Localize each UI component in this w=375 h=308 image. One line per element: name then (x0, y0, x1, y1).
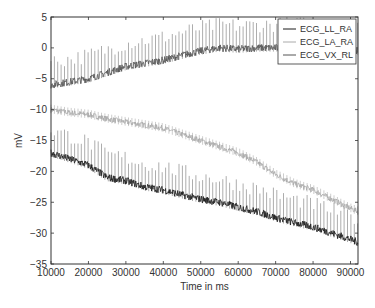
y-tick-label: −20 (30, 166, 47, 177)
y-tick-label: −30 (30, 228, 47, 239)
y-tick-label: −5 (36, 73, 48, 84)
x-tick-label: 60000 (224, 267, 252, 278)
x-axis-label: Time in ms (180, 281, 229, 292)
x-tick-label: 20000 (75, 267, 103, 278)
y-tick-label: −10 (30, 104, 47, 115)
x-tick-label: 90000 (337, 267, 365, 278)
x-tick-label: 70000 (262, 267, 290, 278)
x-tick-label: 30000 (112, 267, 140, 278)
x-tick-label: 80000 (299, 267, 327, 278)
legend-label-ecg_ll_ra: ECG_LL_RA (300, 24, 352, 34)
legend-label-ecg_la_ra: ECG_LA_RA (300, 37, 353, 47)
y-tick-label: −15 (30, 135, 47, 146)
series-line-ecg_ll_ra (51, 150, 358, 246)
x-tick-label: 10000 (37, 267, 65, 278)
x-tick-label: 40000 (149, 267, 177, 278)
legend-label-ecg_vx_rl: ECG_VX_RL (300, 50, 353, 60)
ecg-line-chart: 50−5−10−15−20−25−30−35100002000030000400… (0, 0, 375, 308)
y-tick-label: −25 (30, 197, 47, 208)
y-axis-label: mV (13, 133, 24, 148)
y-tick-label: 0 (41, 42, 47, 53)
x-tick-label: 50000 (187, 267, 215, 278)
y-tick-label: 5 (41, 12, 47, 23)
